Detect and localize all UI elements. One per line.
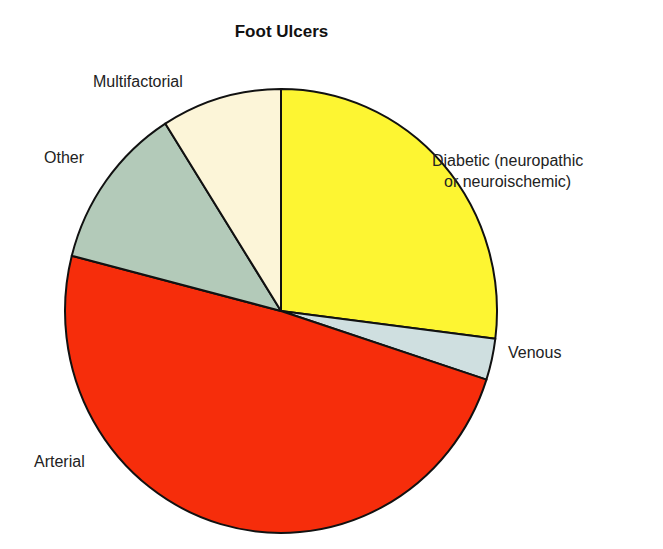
label-arterial: Arterial bbox=[34, 451, 85, 472]
label-multifactorial: Multifactorial bbox=[93, 71, 183, 92]
label-diabetic: Diabetic (neuropathic or neuroischemic) bbox=[432, 150, 583, 192]
pie-slice-diabetic bbox=[281, 89, 497, 339]
label-other: Other bbox=[44, 147, 84, 168]
label-venous: Venous bbox=[508, 342, 561, 363]
